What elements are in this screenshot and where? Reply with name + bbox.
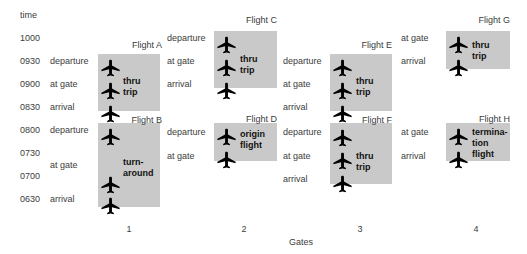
event-label: arrival <box>50 102 75 112</box>
time-tick-label: 0830 <box>20 102 40 112</box>
event-label: departure <box>167 127 206 137</box>
time-tick-label: 0730 <box>20 148 40 158</box>
time-tick-label: 0630 <box>20 194 40 204</box>
airplane-icon <box>100 196 123 216</box>
flight-type-line: termina- <box>472 127 508 138</box>
event-label: at gate <box>401 33 429 43</box>
event-label: at gate <box>167 151 195 161</box>
airplane-icon <box>332 81 355 101</box>
airplane-icon <box>100 58 123 78</box>
flight-type-text: thrutrip <box>356 76 374 98</box>
airplane-icon <box>332 128 355 148</box>
airplane-icon <box>216 127 239 147</box>
airplane-icon <box>100 81 123 101</box>
flight-type-line: thru <box>240 54 258 65</box>
airplane-icon <box>216 35 239 55</box>
flight-type-line: origin <box>240 129 265 140</box>
time-axis-header: time <box>20 10 37 20</box>
time-tick-label: 1000 <box>20 33 40 43</box>
airplane-icon <box>332 151 355 171</box>
flight-type-line: trip <box>123 87 141 98</box>
time-tick-label: 0930 <box>20 56 40 66</box>
flight-label: Flight E <box>361 40 392 50</box>
flight-type-line: flight <box>472 149 508 160</box>
flight-type-line: thru <box>356 151 374 162</box>
event-label: at gate <box>50 79 78 89</box>
event-label: arrival <box>401 56 426 66</box>
event-label: departure <box>283 56 322 66</box>
event-label: departure <box>167 33 206 43</box>
time-tick-label: 0900 <box>20 79 40 89</box>
flight-type-line: trip <box>472 51 490 62</box>
flight-type-text: thrutrip <box>356 151 374 173</box>
flight-type-line: thru <box>356 76 374 87</box>
flight-type-line: tion <box>472 138 508 149</box>
flight-type-line: thru <box>472 40 490 51</box>
event-label: arrival <box>283 174 308 184</box>
flight-type-line: around <box>123 168 154 179</box>
airplane-icon <box>100 104 123 124</box>
event-label: departure <box>283 127 322 137</box>
flight-label: Flight C <box>246 15 277 25</box>
event-label: arrival <box>50 194 75 204</box>
flight-label: Flight B <box>131 115 162 125</box>
airplane-icon <box>448 58 471 78</box>
airplane-icon <box>216 58 239 78</box>
gate-number: 3 <box>357 224 362 234</box>
flight-label: Flight G <box>478 15 510 25</box>
gate-schedule-diagram: time10000930090008300800073007000630depa… <box>0 0 527 254</box>
flight-type-line: flight <box>240 140 265 151</box>
event-label: arrival <box>167 79 192 89</box>
flight-label: Flight D <box>246 114 277 124</box>
event-label: at gate <box>283 151 311 161</box>
event-label: arrival <box>401 151 426 161</box>
gate-number: 4 <box>473 224 478 234</box>
flight-type-text: turn-around <box>123 157 154 179</box>
flight-label: Flight F <box>362 115 392 125</box>
gate-number: 1 <box>126 224 131 234</box>
airplane-icon <box>332 174 355 194</box>
flight-type-line: trip <box>240 65 258 76</box>
flight-type-line: trip <box>356 87 374 98</box>
gates-axis-caption: Gates <box>289 237 313 247</box>
airplane-icon <box>216 150 239 170</box>
gate-number: 2 <box>241 224 246 234</box>
flight-type-line: trip <box>356 162 374 173</box>
airplane-icon <box>448 35 471 55</box>
event-label: departure <box>50 56 89 66</box>
time-tick-label: 0700 <box>20 171 40 181</box>
event-label: arrival <box>283 102 308 112</box>
flight-type-line: turn- <box>123 157 154 168</box>
event-label: at gate <box>167 56 195 66</box>
flight-label: Flight A <box>132 40 162 50</box>
flight-type-text: termina-tionflight <box>472 127 508 160</box>
flight-type-text: thrutrip <box>240 54 258 76</box>
airplane-icon <box>216 81 239 101</box>
event-label: departure <box>50 125 89 135</box>
airplane-icon <box>332 58 355 78</box>
flight-type-text: thrutrip <box>472 40 490 62</box>
event-label: at gate <box>401 127 429 137</box>
airplane-icon <box>448 150 471 170</box>
airplane-icon <box>100 175 123 195</box>
event-label: at gate <box>283 79 311 89</box>
event-label: at gate <box>50 160 78 170</box>
airplane-icon <box>332 104 355 124</box>
flight-type-line: thru <box>123 76 141 87</box>
airplane-icon <box>448 127 471 147</box>
airplane-icon <box>100 127 123 147</box>
time-tick-label: 0800 <box>20 125 40 135</box>
flight-type-text: thrutrip <box>123 76 141 98</box>
flight-type-text: originflight <box>240 129 265 151</box>
flight-label: Flight H <box>479 114 510 124</box>
